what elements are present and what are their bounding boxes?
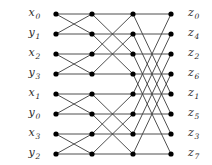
label-subscript: 6 xyxy=(195,72,200,81)
label-subscript: 2 xyxy=(195,52,200,61)
label-base: z xyxy=(188,126,194,139)
label-base: z xyxy=(188,46,194,59)
graph-node-c3-r4 xyxy=(168,91,173,96)
label-subscript: 1 xyxy=(36,92,41,101)
graph-node-c2-r4 xyxy=(130,91,135,96)
label-subscript: 7 xyxy=(195,152,200,161)
label-subscript: 2 xyxy=(36,52,41,61)
graph-node-c0-r6 xyxy=(53,131,58,136)
label-subscript: 0 xyxy=(36,12,41,21)
label-subscript: 3 xyxy=(36,72,41,81)
label-base: y xyxy=(29,26,35,39)
label-subscript: 0 xyxy=(36,112,41,121)
graph-node-c0-r0 xyxy=(53,11,58,16)
label-base: y xyxy=(29,146,35,159)
graph-node-c1-r7 xyxy=(89,151,94,156)
output-label-5: z5 xyxy=(188,107,212,118)
graph-node-c2-r3 xyxy=(130,71,135,76)
label-base: z xyxy=(188,146,194,159)
graph-node-c3-r6 xyxy=(168,131,173,136)
label-subscript: 2 xyxy=(36,152,41,161)
graph-node-c0-r7 xyxy=(53,151,58,156)
output-label-6: z3 xyxy=(188,127,212,138)
input-label-1: y1 xyxy=(8,27,40,38)
input-label-5: y0 xyxy=(8,107,40,118)
graph-node-c0-r1 xyxy=(53,31,58,36)
graph-node-c2-r7 xyxy=(130,151,135,156)
graph-node-c2-r2 xyxy=(130,51,135,56)
label-base: z xyxy=(188,26,194,39)
label-subscript: 0 xyxy=(195,12,200,21)
label-base: x xyxy=(29,46,35,59)
graph-node-c3-r7 xyxy=(168,151,173,156)
output-label-1: z4 xyxy=(188,27,212,38)
output-label-0: z0 xyxy=(188,7,212,18)
edges-layer xyxy=(56,14,171,154)
label-base: y xyxy=(29,66,35,79)
output-label-7: z7 xyxy=(188,147,212,158)
label-base: x xyxy=(29,126,35,139)
output-label-4: z1 xyxy=(188,87,212,98)
graph-node-c1-r5 xyxy=(89,111,94,116)
graph-node-c3-r2 xyxy=(168,51,173,56)
graph-node-c1-r4 xyxy=(89,91,94,96)
graph-node-c1-r2 xyxy=(89,51,94,56)
graph-node-c2-r1 xyxy=(130,31,135,36)
graph-node-c2-r0 xyxy=(130,11,135,16)
butterfly-network-figure: x0y1x2y3x1y0x3y2 z0z4z2z6z1z5z3z7 xyxy=(0,0,212,165)
graph-node-c3-r5 xyxy=(168,111,173,116)
label-subscript: 5 xyxy=(195,112,200,121)
graph-node-c3-r3 xyxy=(168,71,173,76)
graph-node-c0-r2 xyxy=(53,51,58,56)
label-base: x xyxy=(29,86,35,99)
graph-node-c1-r6 xyxy=(89,131,94,136)
label-subscript: 3 xyxy=(36,132,41,141)
input-label-6: x3 xyxy=(8,127,40,138)
label-base: z xyxy=(188,66,194,79)
graph-node-c1-r1 xyxy=(89,31,94,36)
input-label-0: x0 xyxy=(8,7,40,18)
output-label-3: z6 xyxy=(188,67,212,78)
label-subscript: 4 xyxy=(195,32,200,41)
graph-node-c3-r1 xyxy=(168,31,173,36)
graph-node-c1-r3 xyxy=(89,71,94,76)
label-subscript: 1 xyxy=(195,92,200,101)
label-subscript: 1 xyxy=(36,32,41,41)
input-label-7: y2 xyxy=(8,147,40,158)
label-subscript: 3 xyxy=(195,132,200,141)
label-base: x xyxy=(29,6,35,19)
label-base: z xyxy=(188,86,194,99)
graph-node-c2-r5 xyxy=(130,111,135,116)
input-label-4: x1 xyxy=(8,87,40,98)
graph-node-c0-r4 xyxy=(53,91,58,96)
butterfly-network-graph xyxy=(0,0,212,165)
graph-node-c0-r5 xyxy=(53,111,58,116)
input-label-3: y3 xyxy=(8,67,40,78)
graph-node-c3-r0 xyxy=(168,11,173,16)
label-base: z xyxy=(188,106,194,119)
graph-node-c0-r3 xyxy=(53,71,58,76)
graph-node-c2-r6 xyxy=(130,131,135,136)
output-label-2: z2 xyxy=(188,47,212,58)
input-label-2: x2 xyxy=(8,47,40,58)
graph-node-c1-r0 xyxy=(89,11,94,16)
label-base: y xyxy=(29,106,35,119)
label-base: z xyxy=(188,6,194,19)
